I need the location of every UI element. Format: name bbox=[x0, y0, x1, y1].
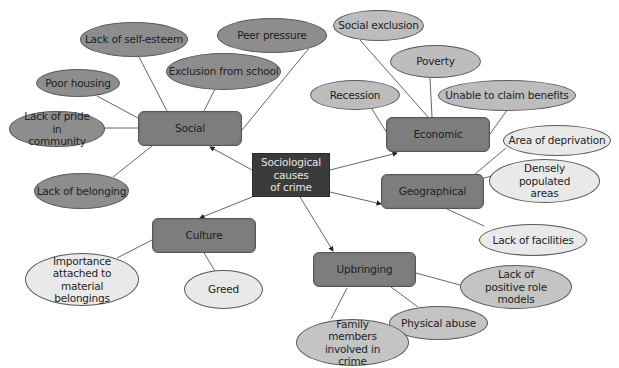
center-node-sociological-causes: Sociological causes of crime bbox=[252, 153, 330, 197]
cause-recession: Recession bbox=[310, 80, 400, 110]
center-label-line2: of crime bbox=[270, 181, 312, 194]
category-economic: Economic bbox=[386, 117, 490, 152]
category-geographical: Geographical bbox=[381, 174, 484, 209]
cause-area-of-deprivation: Area of deprivation bbox=[503, 125, 611, 156]
cause-lack-of-facilities: Lack of facilities bbox=[479, 224, 587, 256]
center-label-line1: Sociological causes bbox=[253, 156, 329, 181]
cause-greed: Greed bbox=[184, 270, 263, 309]
cause-poverty: Poverty bbox=[390, 45, 481, 78]
cause-family-members-involved-in-crime: Family members involved in crime bbox=[296, 319, 409, 366]
cause-poor-housing: Poor housing bbox=[36, 69, 120, 97]
cause-importance-attached-to-material-belongings: Importance attached to material belongin… bbox=[25, 253, 139, 306]
cause-lack-of-self-esteem: Lack of self-esteem bbox=[80, 22, 188, 57]
cause-unable-to-claim-benefits: Unable to claim benefits bbox=[438, 80, 576, 111]
cause-peer-pressure: Peer pressure bbox=[217, 18, 327, 53]
cause-densely-populated-areas: Densely populated areas bbox=[489, 159, 600, 203]
cause-social-exclusion: Social exclusion bbox=[333, 10, 424, 41]
cause-lack-of-positive-role-models: Lack of positive role models bbox=[460, 265, 572, 309]
category-culture: Culture bbox=[152, 218, 256, 253]
cause-exclusion-from-school: Exclusion from school bbox=[166, 53, 281, 90]
category-upbringing: Upbringing bbox=[313, 252, 416, 287]
cause-lack-of-pride-in-community: Lack of pride in community bbox=[9, 111, 105, 147]
cause-lack-of-belonging: Lack of belonging bbox=[34, 173, 129, 209]
category-social: Social bbox=[138, 111, 242, 146]
